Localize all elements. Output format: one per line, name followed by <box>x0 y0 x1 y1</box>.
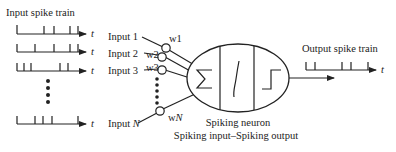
ellipsis-dots-icon <box>155 77 159 105</box>
time-axis-label: t <box>91 65 95 76</box>
weight-node-2 <box>158 53 166 61</box>
weight-n-label: wN <box>168 112 184 123</box>
ellipsis-dots-icon <box>46 79 50 104</box>
weight-2-label: w2 <box>146 49 159 60</box>
input-spike-train-2: t <box>17 44 95 57</box>
input-3-label: Input 3 <box>108 65 138 76</box>
weight-node-n <box>156 107 164 115</box>
output-spike-train-title: Output spike train <box>302 43 379 54</box>
weight-node-1 <box>162 44 170 52</box>
input-spike-train-n: t <box>17 116 95 129</box>
spiking-neuron-body <box>187 44 289 112</box>
neuron-sublabel: Spiking input–Spiking output <box>174 130 298 141</box>
input-spike-train-3: t <box>17 63 95 76</box>
weight-1-label: w1 <box>169 33 182 44</box>
weight-node-3 <box>158 66 166 74</box>
time-axis-label: t <box>91 46 95 57</box>
input-spike-train-1: t <box>17 25 95 39</box>
input-n-label: Input N <box>108 118 141 129</box>
time-axis-label: t <box>91 118 95 129</box>
output-spike-train: t <box>306 62 385 75</box>
weight-3-label: w3 <box>146 62 159 73</box>
input-2-label: Input 2 <box>108 48 138 59</box>
neuron-label: Spiking neuron <box>206 117 271 128</box>
spiking-neuron-diagram: Input spike train t t t t Input 1 Input … <box>0 0 396 152</box>
time-axis-label: t <box>91 28 95 39</box>
input-1-label: Input 1 <box>108 31 138 42</box>
input-spike-train-title: Input spike train <box>6 7 76 18</box>
time-axis-label: t <box>381 64 385 75</box>
